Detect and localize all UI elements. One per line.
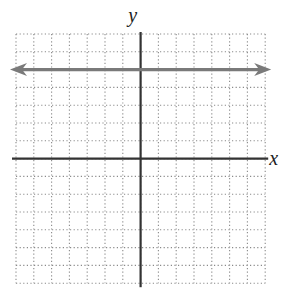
- x-axis-label: x: [268, 147, 278, 169]
- coordinate-plane: y x: [0, 0, 288, 294]
- y-axis-label: y: [126, 4, 137, 27]
